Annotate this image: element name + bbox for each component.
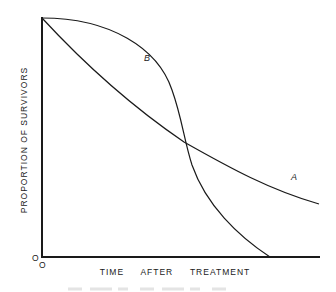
curve-b-label: B [144,53,150,63]
survival-chart: A B PROPORTION OF SURVIVORS O O TIME AFT… [0,0,336,292]
x-axis-title: TIME AFTER TREATMENT [100,267,250,277]
curve-a [42,18,319,204]
curve-a-label: A [290,172,297,182]
y-axis-title: PROPORTION OF SURVIVORS [19,67,29,213]
origin-x-label: O [39,260,47,270]
